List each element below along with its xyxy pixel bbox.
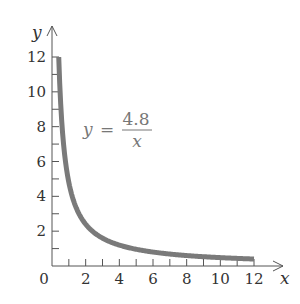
y-tick-label: 12 (27, 48, 46, 66)
equation-denominator: x (132, 131, 142, 151)
equation-label: y = 4.8 x (82, 109, 152, 151)
y-tick-label: 8 (36, 118, 46, 136)
axes (47, 26, 283, 271)
equation-equals: = (100, 119, 114, 139)
x-tick-label: 4 (115, 270, 125, 288)
y-tick-label: 2 (36, 222, 46, 240)
equation-numerator: 4.8 (122, 109, 149, 129)
origin-label: 0 (39, 270, 49, 288)
x-tick-label: 12 (244, 270, 263, 288)
y-tick-label: 10 (27, 83, 46, 101)
y-tick-label: 4 (36, 187, 46, 205)
x-tick-label: 8 (182, 270, 192, 288)
x-tick-label: 2 (81, 270, 91, 288)
y-tick-label: 6 (36, 153, 46, 171)
equation-lhs: y (82, 119, 93, 139)
curve-y-equals-4.8-over-x (59, 57, 254, 259)
x-tick-label: 10 (211, 270, 230, 288)
x-tick-label: 6 (148, 270, 158, 288)
hyperbola-chart: 24681012246810120xy y = 4.8 x (0, 0, 300, 304)
curve-line (59, 57, 254, 259)
x-axis-label: x (280, 268, 290, 288)
y-axis-label: y (31, 22, 42, 42)
